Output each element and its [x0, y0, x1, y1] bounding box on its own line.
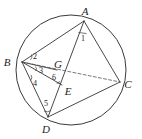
- angle-label-3: 3: [39, 66, 43, 75]
- angle-label-4: 4: [33, 79, 37, 88]
- vertex-label-C: C: [124, 78, 132, 90]
- geometry-diagram-svg: A B C D E G 1 2 3 4 5 6: [0, 0, 142, 139]
- vertex-label-A: A: [81, 5, 89, 17]
- vertex-label-G: G: [54, 58, 62, 70]
- angle-arc-2: [31, 55, 32, 60]
- vertex-label-D: D: [41, 123, 50, 135]
- angle-label-5: 5: [44, 99, 48, 108]
- angle-label-2: 2: [33, 52, 37, 61]
- angle-arc-3: [36, 67, 37, 72]
- angle-label-1: 1: [81, 34, 85, 43]
- angle-label-6: 6: [52, 73, 56, 82]
- segment-AC: [84, 21, 120, 82]
- circumscribed-circle: [16, 15, 126, 125]
- geometry-figure: A B C D E G 1 2 3 4 5 6: [0, 0, 142, 139]
- segment-BD: [22, 62, 48, 117]
- vertex-label-B: B: [4, 56, 11, 68]
- vertex-label-E: E: [64, 85, 72, 97]
- segment-AB: [22, 21, 84, 62]
